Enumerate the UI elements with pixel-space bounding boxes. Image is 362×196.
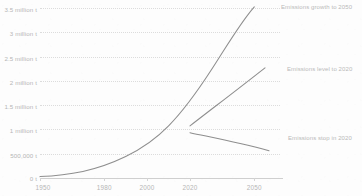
x-axis-line bbox=[40, 178, 283, 179]
series-annotation-emissions-stop: Emissions stop in 2020 bbox=[288, 135, 352, 141]
y-axis-label: 2 million t bbox=[10, 78, 37, 85]
x-axis-tick bbox=[254, 178, 255, 181]
series-line-emissions-growth bbox=[40, 7, 254, 177]
y-axis-label: 3.5 million t bbox=[4, 6, 37, 13]
x-axis-label: 2050 bbox=[247, 184, 262, 191]
x-axis-label: 1980 bbox=[97, 184, 112, 191]
x-axis-tick bbox=[104, 178, 105, 181]
series-annotation-emissions-level: Emissions level to 2020 bbox=[287, 66, 352, 72]
x-axis-tick bbox=[147, 178, 148, 181]
y-axis-label: 3 million t bbox=[10, 30, 37, 37]
series-line-emissions-stop bbox=[190, 133, 269, 151]
series-annotation-emissions-growth: Emissions growth to 2050 bbox=[281, 4, 352, 10]
y-axis-label: 0 t bbox=[30, 175, 37, 182]
y-axis-label: 1.5 million t bbox=[4, 103, 37, 110]
x-axis-label: 2020 bbox=[182, 184, 197, 191]
y-axis-label: 2.5 million t bbox=[4, 54, 37, 61]
chart-figure: 3.5 million t 3 million t 2.5 million t … bbox=[0, 0, 362, 196]
y-axis-label: 1 million t bbox=[10, 127, 37, 134]
x-axis-label: 2000 bbox=[140, 184, 155, 191]
x-axis-tick bbox=[40, 178, 41, 181]
y-axis-label: 500,000 t bbox=[10, 151, 37, 158]
series-line-emissions-level bbox=[190, 68, 265, 126]
plot-area: 3.5 million t 3 million t 2.5 million t … bbox=[40, 8, 280, 178]
x-axis-label: 1950 bbox=[35, 184, 50, 191]
curve-group bbox=[40, 8, 280, 178]
x-axis-tick bbox=[190, 178, 191, 181]
